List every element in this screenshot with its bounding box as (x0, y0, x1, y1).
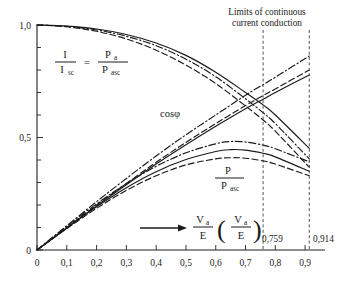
ratio-right-denominator: P (102, 64, 108, 75)
xvar-paren-close: ) (253, 215, 262, 244)
annotation-current-ratio: I I sc = P a P asc (55, 49, 128, 77)
ratio-right-numerator: P (105, 49, 111, 60)
limit-lines-layer (263, 30, 309, 250)
xvar-paren-open: ( (217, 215, 226, 244)
ratio-left-numerator: I (63, 49, 67, 60)
x-tick-label: 0,2 (91, 258, 103, 268)
annotation-power-ratio: P P asc (215, 165, 244, 193)
chart-title-line2: current conduction (232, 18, 302, 28)
x-tick-label: 0,7 (240, 258, 252, 268)
x-tick-labels: 00,10,20,30,40,50,60,70,80,9 (35, 258, 312, 268)
ratio-equals-sign: = (84, 57, 90, 68)
power-denominator: P (221, 180, 227, 191)
y-tick-label: 0 (26, 246, 31, 256)
power-denominator-sub: asc (230, 185, 239, 193)
x-axis-ticks (37, 245, 305, 250)
x-tick-label: 0,6 (210, 258, 222, 268)
curves-layer (37, 25, 309, 250)
xvar-denominator: E (200, 230, 206, 241)
x-tick-label: 0,4 (150, 258, 162, 268)
x-tick-label: 0 (35, 258, 40, 268)
chart-canvas: 1,00,50 00,10,20,30,40,50,60,70,80,9 Lim… (0, 0, 357, 286)
ratio-right-denominator-sub: asc (111, 69, 120, 77)
limit-label-second: 0,914 (313, 234, 334, 244)
xvar-numerator-sub: a (206, 219, 210, 227)
annotation-cos-phi: cosφ (160, 108, 180, 119)
annotation-x-variable: V a E ( V a E ) (140, 214, 262, 244)
x-tick-label: 0,5 (180, 258, 192, 268)
ratio-left-denominator: I (60, 64, 64, 75)
power-numerator: P (225, 165, 231, 176)
xvar-numerator: V (196, 214, 204, 225)
y-axis-ticks (37, 25, 43, 250)
x-variable-arrow-head (178, 224, 187, 231)
x-tick-label: 0,1 (61, 258, 73, 268)
chart-title-line1: Limits of continuous (228, 7, 306, 17)
x-tick-label: 0,8 (269, 258, 281, 268)
x-tick-label: 0,9 (299, 258, 311, 268)
xvar2-denominator: E (238, 230, 244, 241)
curve-cosphi-dashed (37, 70, 309, 250)
curve-current-dashdot (37, 25, 309, 159)
limit-label-first: 0,759 (262, 234, 283, 244)
y-tick-label: 1,0 (19, 21, 31, 31)
ratio-left-denominator-sub: sc (68, 69, 74, 77)
x-tick-label: 0,3 (120, 258, 132, 268)
curve-current-solid (37, 25, 309, 148)
curve-cosphi-solid (37, 75, 309, 250)
y-tick-label: 0,5 (19, 133, 31, 143)
xvar2-numerator-sub: a (244, 219, 248, 227)
y-tick-labels: 1,00,50 (19, 21, 31, 256)
ratio-right-numerator-sub: a (114, 54, 118, 62)
xvar2-numerator: V (234, 214, 242, 225)
chart-figure: 1,00,50 00,10,20,30,40,50,60,70,80,9 Lim… (0, 0, 357, 286)
